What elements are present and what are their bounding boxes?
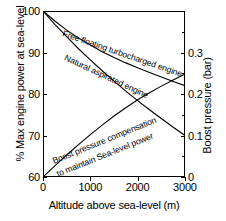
- y2tick-minor-bottom: [182, 156, 185, 157]
- ytick-label-70: 70: [28, 131, 40, 142]
- ytick-70: [43, 136, 47, 137]
- xtick-label-2000: 2000: [123, 182, 153, 193]
- ytick-100: [43, 11, 47, 12]
- y-axis-title-right: Boost pressure (bar): [202, 31, 213, 181]
- y2tick-0.2: [181, 94, 185, 95]
- xtick-label-1000: 1000: [75, 182, 105, 193]
- x-axis-title: Altitude above sea-level (m): [28, 200, 200, 211]
- y-axis-title-left: % Max engine power at sea-level: [15, 0, 26, 169]
- ytick-90: [43, 53, 47, 54]
- ytick-label-90: 90: [28, 48, 40, 59]
- y2tick-minor-upper: [182, 32, 185, 33]
- ytick-label-80: 80: [28, 89, 40, 100]
- xtick-label-0: 0: [28, 182, 58, 193]
- y2tick-0.3: [181, 53, 185, 54]
- ytick-80: [43, 94, 47, 95]
- xtick-label-3000: 3000: [170, 182, 200, 193]
- y2tick-minor-low: [182, 115, 185, 116]
- y2tick-0.1: [181, 136, 185, 137]
- y2tick-0.4: [182, 11, 185, 12]
- chart-figure: 100 90 80 70 60 0.3 0.2 0.1 0 0 1000 200…: [0, 0, 226, 221]
